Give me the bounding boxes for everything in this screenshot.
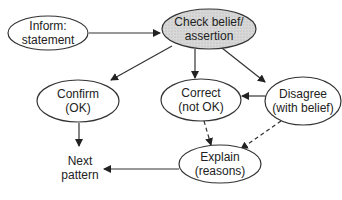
edge-check-disagree [222, 48, 265, 82]
label-line: Next [61, 154, 98, 168]
label-next-pattern: Next pattern [61, 154, 98, 182]
label-confirm: Confirm (OK) [57, 87, 99, 115]
label-line: assertion [174, 29, 243, 43]
label-check: Check belief/ assertion [174, 15, 243, 43]
label-line: Inform: [22, 19, 75, 33]
label-line: Explain [195, 150, 246, 164]
label-line: (OK) [57, 101, 99, 115]
label-line: Confirm [57, 87, 99, 101]
label-line: Check belief/ [174, 15, 243, 29]
label-inform: Inform: statement [22, 19, 75, 47]
label-explain: Explain (reasons) [195, 150, 246, 178]
label-line: Disagree [272, 87, 333, 101]
label-line: Correct [178, 86, 223, 100]
label-line: (not OK) [178, 100, 223, 114]
edge-correct-explain [204, 121, 211, 145]
edge-disagree-explain [241, 121, 281, 149]
label-correct: Correct (not OK) [178, 86, 223, 114]
label-line: (reasons) [195, 164, 246, 178]
label-disagree: Disagree (with belief) [272, 87, 333, 115]
label-line: statement [22, 33, 75, 47]
label-line: (with belief) [272, 101, 333, 115]
label-line: pattern [61, 168, 98, 182]
edge-check-confirm [111, 46, 172, 80]
